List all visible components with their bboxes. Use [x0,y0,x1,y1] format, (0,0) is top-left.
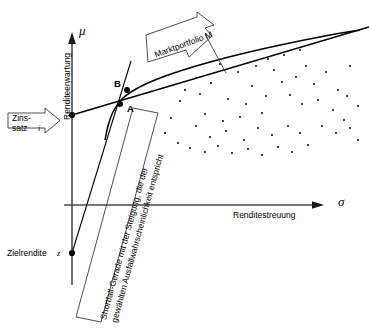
figure-canvas: Renditeerwartung μ Renditestreuung σ Zin… [0,0,369,334]
point-B [124,87,130,93]
scatter-point [287,125,289,127]
scatter-point [349,127,351,129]
scatter-point [332,109,334,111]
scatter-point [199,93,201,95]
scatter-point [225,130,227,132]
scatter-point [243,139,245,141]
scatter-point [204,151,206,153]
scatter-point [231,152,233,154]
scatter-point [273,69,275,71]
scatter-point [189,147,191,149]
capital-market-line [72,27,369,115]
scatter-point [337,89,339,91]
scatter-point [255,65,257,67]
scatter-point [164,132,166,134]
scatter-point [321,125,323,127]
scatter-point [289,94,291,96]
scatter-point [204,113,206,115]
scatter-point [195,125,197,127]
zinssatz-callout-line1: Zins- [12,113,31,123]
scatter-point [305,65,307,67]
y-axis-symbol: μ [79,23,86,39]
scatter-point [209,136,211,138]
scatter-point [257,127,259,129]
scatter-point [317,99,319,101]
scatter-point [357,105,359,107]
scatter-point [177,142,179,144]
scatter-point [346,95,348,97]
x-axis-title: Renditestreuung [233,210,295,220]
scatter-point [349,65,351,67]
scatter-point [217,145,219,147]
scatter-point [237,71,239,73]
point-label-B: B [114,78,121,89]
x-axis [64,201,324,209]
scatter-point [267,58,269,60]
scatter-point [251,85,253,87]
scatter-point [335,132,337,134]
scatter-point [247,148,249,150]
scatter-point [245,103,247,105]
y-axis-title: Renditeerwartung [62,53,72,120]
scatter-point [261,112,263,114]
scatter-point [265,95,267,97]
scatter-point [281,81,283,83]
scatter-point [277,146,279,148]
scatter-point [295,76,297,78]
scatter-point [184,89,186,91]
scatter-point [343,119,345,121]
scatter-point [307,144,309,146]
scatter-point [170,117,172,119]
scatter-point [261,154,263,156]
scatter-point [271,134,273,136]
scatter-point [291,151,293,153]
scatter-point [299,49,301,51]
scatter-point [222,120,224,122]
zinssatz-callout-line2: satz [12,123,28,133]
point-A [117,101,123,107]
scatter-point [179,100,181,102]
zielrendite-symbol: z [57,248,60,258]
zinssatz-callout-symbol: i [38,123,40,133]
scatter-point [357,139,359,141]
point-label-A: A [127,103,134,114]
point-target-return [69,250,75,256]
scatter-point [299,132,301,134]
scatter-point [227,98,229,100]
diagram-svg [0,0,369,334]
scatter-point [283,54,285,56]
scatter-point [210,82,212,84]
scatter-point [239,116,241,118]
scatter-point [325,71,327,73]
x-axis-symbol: σ [338,194,344,210]
scatter-point [301,103,303,105]
scatter-points [164,49,359,156]
zielrendite-label: Zielrendite [7,248,47,258]
scatter-point [313,83,315,85]
